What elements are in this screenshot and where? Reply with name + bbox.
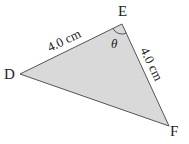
triangle-def bbox=[20, 24, 169, 126]
angle-label-theta: θ bbox=[111, 36, 118, 51]
vertex-label-e: E bbox=[118, 3, 127, 19]
vertex-label-f: F bbox=[170, 123, 178, 139]
triangle-diagram: E D F 4.0 cm 4.0 cm θ bbox=[0, 0, 189, 144]
vertex-label-d: D bbox=[4, 66, 15, 82]
